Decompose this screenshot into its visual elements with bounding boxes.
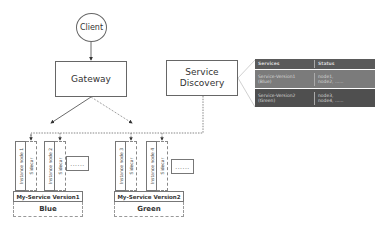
gateway-label: Gateway	[71, 74, 111, 84]
color-label-green: Green	[114, 202, 184, 217]
more-instances-blue: ......	[66, 156, 89, 171]
cell-service-color: (Green)	[258, 98, 311, 104]
table-header: Services Status	[255, 59, 375, 69]
service-discovery-node: Service Discovery	[166, 60, 238, 96]
diagram-canvas: Client Gateway Service Discovery Service…	[0, 0, 385, 227]
instance-label: Instance node 1	[18, 148, 23, 184]
client-node: Client	[76, 13, 107, 42]
client-label: Client	[80, 23, 103, 32]
cell-status-more: node2, ......	[318, 79, 372, 85]
more-instances-green: ......	[171, 159, 194, 174]
cell-service-color: (Blue)	[258, 79, 311, 85]
service-discovery-label-2: Discovery	[180, 78, 224, 89]
sidecar-label: Sidecar	[160, 158, 165, 175]
instance-node-1: Instance node 1	[15, 141, 26, 191]
instance-node-3: Instance node 3	[115, 141, 126, 191]
version-label-green: My-Service Version2	[114, 191, 184, 202]
service-discovery-label-1: Service	[180, 67, 224, 78]
header-status: Status	[315, 60, 375, 68]
edge-gateway-blue	[51, 97, 91, 123]
edge-discovery-bus	[31, 96, 203, 140]
header-services: Services	[255, 60, 315, 68]
cell-status-more: node4, ......	[318, 98, 372, 104]
instance-node-2: Instance node 2	[44, 141, 55, 191]
sidecar-label: Sidecar	[58, 158, 63, 175]
instance-node-4: Instance node 4	[146, 141, 157, 191]
sidecar-4: Sidecar	[157, 141, 168, 191]
sidecar-3: Sidecar	[126, 141, 137, 191]
instance-label: Instance node 4	[149, 148, 154, 184]
sidecar-2: Sidecar	[55, 141, 66, 191]
version-label-blue: My-Service Version1	[13, 191, 83, 202]
instance-label: Instance node 3	[118, 148, 123, 184]
sidecar-label: Sidecar	[29, 158, 34, 175]
sidecar-label: Sidecar	[129, 158, 134, 175]
color-label-blue: Blue	[13, 202, 83, 217]
table-row: Service-Version2(Green) node3,node4, ...…	[255, 89, 375, 107]
sidecar-1: Sidecar	[26, 141, 37, 191]
instance-label: Instance node 2	[47, 148, 52, 184]
edge-gateway-green	[91, 97, 132, 123]
table-row: Service-Version1(Blue) node1,node2, ....…	[255, 70, 375, 88]
gateway-node: Gateway	[55, 61, 127, 97]
service-registry-table: Services Status Service-Version1(Blue) n…	[255, 59, 375, 107]
